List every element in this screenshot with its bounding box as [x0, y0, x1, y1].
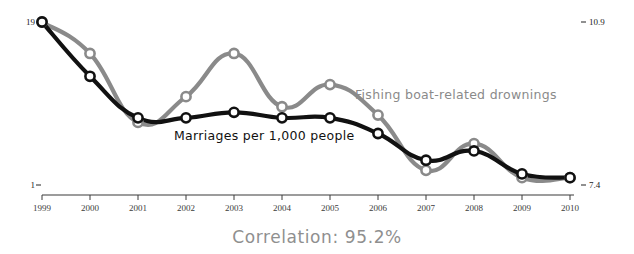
data-point-marriages-2005 [325, 113, 334, 122]
data-point-marriages-2001 [133, 113, 142, 122]
data-point-drownings-2006 [373, 110, 382, 119]
annotation-fishing-boat-drownings: Fishing boat-related drownings [355, 87, 557, 102]
correlation-caption: Correlation: 95.2% [232, 227, 402, 247]
right-axis-top-label: 10.9 [589, 17, 605, 27]
data-point-marriages-2008 [469, 146, 478, 155]
data-point-drownings-2005 [325, 80, 334, 89]
left-axis-top-label: 19 [26, 17, 36, 27]
chart-background [0, 0, 634, 254]
x-tick-label-2010: 2010 [561, 203, 580, 213]
data-point-marriages-2007 [421, 156, 430, 165]
data-point-drownings-2004 [277, 102, 286, 111]
data-point-marriages-2000 [85, 72, 94, 81]
annotation-marriages: Marriages per 1,000 people [174, 128, 354, 143]
x-tick-label-2003: 2003 [225, 203, 244, 213]
x-tick-label-2007: 2007 [417, 203, 436, 213]
data-point-marriages-2002 [181, 113, 190, 122]
data-point-marriages-1999 [37, 17, 46, 26]
x-tick-label-2006: 2006 [369, 203, 388, 213]
right-axis-bottom-label: 7.4 [589, 180, 601, 190]
data-point-marriages-2003 [229, 108, 238, 117]
x-tick-label-2004: 2004 [273, 203, 292, 213]
data-point-marriages-2010 [565, 173, 574, 182]
x-tick-label-2002: 2002 [177, 203, 195, 213]
data-point-drownings-2000 [85, 49, 94, 58]
data-point-drownings-2007 [421, 166, 430, 175]
data-point-drownings-2003 [229, 49, 238, 58]
data-point-drownings-2002 [181, 92, 190, 101]
left-axis-bottom-label: 1 [31, 180, 36, 190]
correlation-chart: 19 1 10.9 7.4 19992000200120022003200420… [0, 0, 634, 254]
x-tick-label-2009: 2009 [513, 203, 532, 213]
x-tick-label-1999: 1999 [33, 203, 52, 213]
x-tick-label-2008: 2008 [465, 203, 484, 213]
chart-canvas: 19 1 10.9 7.4 19992000200120022003200420… [0, 0, 634, 254]
x-tick-label-2000: 2000 [81, 203, 100, 213]
data-point-marriages-2004 [277, 113, 286, 122]
x-tick-label-2001: 2001 [129, 203, 147, 213]
x-tick-label-2005: 2005 [321, 203, 340, 213]
data-point-marriages-2006 [373, 129, 382, 138]
data-point-marriages-2009 [517, 169, 526, 178]
